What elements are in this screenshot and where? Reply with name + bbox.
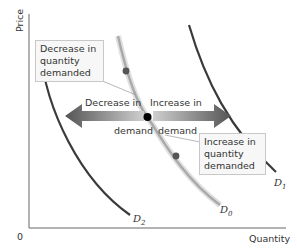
- right-arrow-label-top: Increase in: [150, 97, 202, 108]
- right-arrow-label-bottom: demand: [158, 125, 197, 136]
- point-upper: [123, 68, 130, 75]
- y-axis-label: Price: [14, 9, 25, 32]
- left-arrow-label-top: Decrease in: [85, 97, 141, 108]
- point-lower: [173, 153, 180, 160]
- point-center: [144, 113, 152, 121]
- curve-d1-label: D1: [273, 177, 287, 191]
- curve-d0-label: D0: [219, 204, 233, 218]
- callout-increase-line1: Increase in: [204, 136, 261, 148]
- callout-decrease-line3: demanded: [40, 67, 99, 79]
- callout-increase-leader: [165, 135, 200, 142]
- left-arrow-label-bottom: demand: [114, 125, 153, 136]
- callout-decrease-line1: Decrease in: [40, 43, 99, 55]
- callout-increase-line2: quantity: [204, 148, 261, 160]
- curve-d2-label: D2: [132, 213, 146, 227]
- callout-decrease-quantity: Decrease in quantity demanded: [35, 40, 104, 82]
- callout-increase-line3: demanded: [204, 160, 261, 172]
- x-axis-label: Quantity: [249, 233, 290, 244]
- callout-decrease-line2: quantity: [40, 55, 99, 67]
- demand-shift-diagram: Price Quantity 0 D2 D0 D1 Decrease in de…: [0, 0, 297, 250]
- callout-increase-quantity: Increase in quantity demanded: [199, 133, 266, 175]
- origin-label: 0: [17, 231, 23, 242]
